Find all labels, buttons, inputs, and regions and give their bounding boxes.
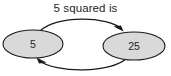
forward-arrowhead-icon (114, 26, 124, 32)
return-edge-path (38, 58, 127, 70)
node-source: 5 (3, 30, 63, 58)
return-arrowhead-icon (37, 58, 47, 64)
diagram-canvas: 5 squared is 5 25 (0, 0, 171, 76)
node-result-label: 25 (128, 40, 140, 52)
node-result: 25 (103, 32, 165, 60)
squared-diagram: 5 squared is 5 25 (0, 0, 171, 76)
forward-edge (40, 19, 124, 31)
return-edge (37, 58, 128, 70)
forward-edge-path (40, 19, 122, 31)
node-source-label: 5 (30, 38, 36, 50)
diagram-title: 5 squared is (54, 2, 118, 14)
